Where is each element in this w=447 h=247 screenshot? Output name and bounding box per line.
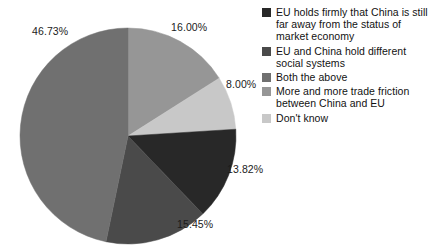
legend-item-label: EU and China hold differentsocial system… (276, 45, 406, 69)
pie-graphic (0, 0, 250, 247)
pie-slice (20, 28, 128, 242)
pie-slice-label: 8.00% (226, 78, 256, 90)
pie-slice-label: 16.00% (171, 21, 207, 33)
legend-item-label: Both the above (276, 71, 347, 83)
chart-legend: EU holds firmly that China is stillfar a… (262, 6, 447, 126)
legend-color-swatch (262, 73, 271, 82)
pie-slice-label: 46.73% (32, 25, 68, 37)
pie-slices (20, 28, 236, 244)
legend-item: EU holds firmly that China is stillfar a… (262, 6, 447, 43)
legend-item-label: Don't know (276, 112, 328, 124)
legend-color-swatch (262, 87, 271, 96)
legend-item: Don't know (262, 112, 447, 124)
legend-color-swatch (262, 8, 271, 17)
legend-item-label: More and more trade frictionbetween Chin… (276, 85, 409, 109)
legend-color-swatch (262, 47, 271, 56)
pie-slice-label: 15.45% (177, 218, 213, 230)
legend-item-label: EU holds firmly that China is stillfar a… (276, 6, 428, 43)
legend-item: EU and China hold differentsocial system… (262, 45, 447, 69)
pie-chart: 46.73%16.00%8.00%13.82%15.45% EU holds f… (0, 0, 447, 247)
pie-slice-label: 13.82% (227, 163, 263, 175)
pie-plot-area: 46.73%16.00%8.00%13.82%15.45% (0, 0, 250, 247)
legend-color-swatch (262, 114, 271, 123)
legend-item: More and more trade frictionbetween Chin… (262, 85, 447, 109)
legend-item: Both the above (262, 71, 447, 83)
